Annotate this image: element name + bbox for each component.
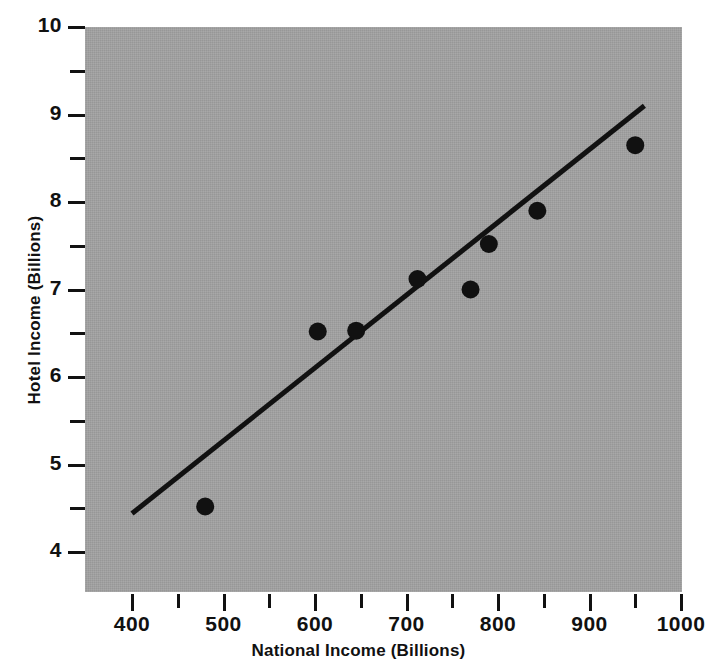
data-point <box>528 202 546 220</box>
x-axis-tick-label: 600 <box>270 612 360 636</box>
x-axis-tick-label: 900 <box>545 612 635 636</box>
x-axis-major-tick <box>406 594 409 611</box>
y-axis-major-tick <box>68 26 85 29</box>
x-axis-major-tick <box>589 594 592 611</box>
data-point <box>309 323 327 341</box>
y-axis-minor-tick <box>70 245 85 248</box>
y-axis-major-tick <box>68 376 85 379</box>
y-axis-minor-tick <box>70 70 85 73</box>
y-axis-major-tick <box>68 201 85 204</box>
y-axis-tick-label: 4 <box>22 538 62 562</box>
data-points-group <box>196 136 644 515</box>
x-axis-minor-tick <box>634 594 637 608</box>
x-axis-major-tick <box>131 594 134 611</box>
x-axis-minor-tick <box>268 594 271 608</box>
data-point <box>462 281 480 299</box>
x-axis-major-tick <box>680 594 683 611</box>
x-axis-tick-label: 800 <box>453 612 543 636</box>
plot-area <box>85 27 682 592</box>
trend-line <box>132 106 644 514</box>
x-axis-tick-label: 400 <box>87 612 177 636</box>
x-axis-title: National Income (Billions) <box>0 641 717 661</box>
x-axis-minor-tick <box>543 594 546 608</box>
y-axis-major-tick <box>68 464 85 467</box>
y-axis-major-tick <box>68 114 85 117</box>
scatter-chart-figure: 45678910 4005006007008009001000 National… <box>0 0 717 667</box>
x-axis-major-tick <box>497 594 500 611</box>
y-axis-minor-tick <box>70 420 85 423</box>
y-axis-minor-tick <box>70 332 85 335</box>
data-point <box>347 322 365 340</box>
x-axis-minor-tick <box>451 594 454 608</box>
data-point <box>480 235 498 253</box>
y-axis-major-tick <box>68 551 85 554</box>
y-axis-minor-tick <box>70 507 85 510</box>
data-point <box>196 498 214 516</box>
x-axis-tick-label: 1000 <box>636 612 717 636</box>
x-axis-major-tick <box>223 594 226 611</box>
data-point <box>626 136 644 154</box>
y-axis-minor-tick <box>70 157 85 160</box>
y-axis-title: Hotel Income (Billions) <box>25 160 45 460</box>
x-axis-minor-tick <box>360 594 363 608</box>
data-point <box>408 270 426 288</box>
x-axis-minor-tick <box>177 594 180 608</box>
x-axis-tick-label: 500 <box>179 612 269 636</box>
x-axis-tick-label: 700 <box>362 612 452 636</box>
x-axis-major-tick <box>314 594 317 611</box>
y-axis-tick-label: 10 <box>22 13 62 37</box>
plot-canvas <box>85 27 682 592</box>
regression-line <box>132 106 644 514</box>
y-axis-major-tick <box>68 289 85 292</box>
y-axis-tick-label: 9 <box>22 101 62 125</box>
